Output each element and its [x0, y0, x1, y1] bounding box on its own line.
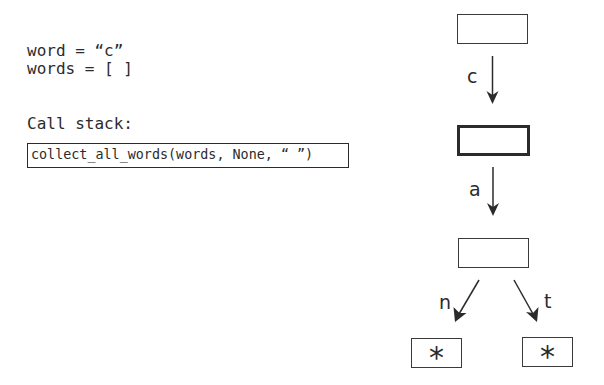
call-stack-label: Call stack: — [27, 115, 133, 133]
edge-label-n: n — [439, 292, 451, 312]
end-of-word-star-icon: * — [523, 338, 572, 376]
trie-node-ca — [458, 238, 529, 268]
edge-label-a: a — [469, 179, 481, 199]
edge-label-t: t — [544, 291, 551, 311]
edge-label-c: c — [467, 66, 477, 86]
trie-node-root — [457, 14, 528, 44]
words-variable: words = [ ] — [27, 60, 133, 78]
trie-node-can-end: * — [411, 338, 462, 368]
end-of-word-star-icon: * — [412, 339, 461, 377]
trie-node-c-current — [457, 125, 530, 156]
edge-n-arrow-icon — [454, 280, 480, 322]
edge-c-arrow-icon — [487, 56, 499, 104]
word-variable: word = “c” — [27, 42, 123, 60]
call-stack-frame: collect_all_words(words, None, “ ”) — [27, 143, 349, 168]
edge-t-arrow-icon — [514, 280, 539, 322]
edge-a-arrow-icon — [487, 167, 499, 216]
trie-node-cat-end: * — [522, 337, 573, 367]
